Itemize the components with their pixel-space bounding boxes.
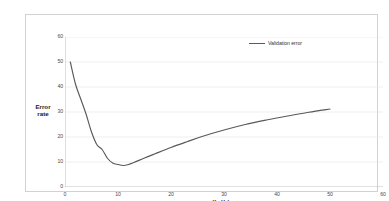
chart-legend: Validation error bbox=[249, 39, 302, 48]
x-axis-title: K - Value bbox=[65, 199, 383, 201]
x-tick-label: 20 bbox=[161, 192, 181, 197]
y-axis-title-line1: Error bbox=[28, 103, 58, 110]
y-tick-label: 50 bbox=[47, 59, 63, 64]
x-tick-label: 10 bbox=[108, 192, 128, 197]
x-tick-label: 60 bbox=[373, 192, 389, 197]
x-tick-label: 30 bbox=[214, 192, 234, 197]
y-tick-label: 20 bbox=[47, 134, 63, 139]
x-tick-label: 50 bbox=[320, 192, 340, 197]
y-tick-label: 0 bbox=[47, 184, 63, 189]
y-axis-title: Error rate bbox=[28, 103, 58, 118]
y-tick-label: 60 bbox=[47, 34, 63, 39]
x-tick-label: 0 bbox=[55, 192, 75, 197]
plot-area bbox=[65, 37, 383, 187]
series-line-validation-error bbox=[70, 62, 330, 166]
legend-line-swatch bbox=[249, 43, 265, 44]
legend-label: Validation error bbox=[268, 41, 302, 46]
chart-frame: 0102030405060 Error rate 0102030405060 K… bbox=[25, 14, 378, 192]
y-tick-label: 40 bbox=[47, 84, 63, 89]
plot-svg bbox=[65, 37, 383, 187]
series-layer bbox=[70, 62, 330, 166]
y-tick-label: 10 bbox=[47, 159, 63, 164]
x-tick-label: 40 bbox=[267, 192, 287, 197]
gridlines bbox=[65, 37, 383, 162]
y-axis-title-line2: rate bbox=[28, 110, 58, 117]
